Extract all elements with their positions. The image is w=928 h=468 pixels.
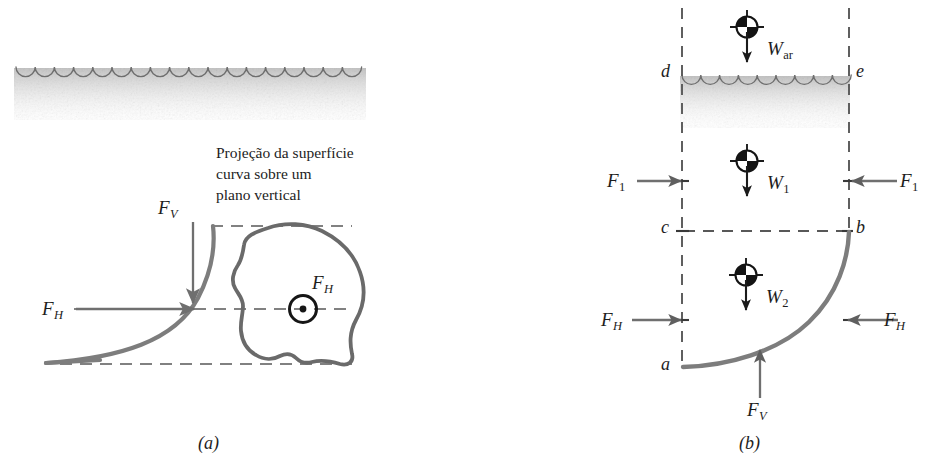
w2-symbol: W (766, 286, 782, 307)
water-surface-waves-b (680, 75, 851, 128)
projection-outline-a (233, 224, 364, 364)
fh-projection-symbol: F (312, 272, 324, 293)
label-fh-left: FH (601, 310, 622, 332)
figure-root: Projeção da superfície curva sobre um pl… (0, 0, 928, 468)
fh-projection-subscript: H (324, 282, 333, 296)
w1-subscript: 1 (783, 182, 789, 196)
fh-curve-subscript: H (54, 308, 63, 322)
centroid-dot-marker-a (290, 296, 317, 323)
fh-left-subscript: H (613, 319, 622, 333)
w-ar-subscript: ar (783, 48, 793, 62)
f1-left-subscript: 1 (619, 180, 625, 194)
fh-right-subscript: H (896, 319, 905, 333)
fv-bottom-subscript: V (759, 409, 767, 423)
label-w-ar: War (767, 39, 793, 61)
vertex-label-e: e (856, 62, 864, 80)
caption-panel-a: (a) (198, 434, 219, 452)
free-body-boundary-dashed-b (682, 8, 849, 367)
vertex-label-a: a (661, 355, 670, 373)
label-fh-projection-panel-a: FH (312, 273, 333, 295)
vertex-label-c: c (661, 218, 669, 236)
fh-curve-symbol: F (42, 298, 54, 319)
fh-left-symbol: F (601, 309, 613, 330)
figure-canvas (0, 0, 928, 468)
label-f1-left: F1 (607, 171, 625, 193)
force-arrows-b (632, 181, 898, 398)
fh-right-symbol: F (884, 309, 896, 330)
w2-subscript: 2 (782, 296, 788, 310)
vertex-label-d: d (661, 62, 670, 80)
projection-note: Projeção da superfície curva sobre um pl… (216, 143, 392, 205)
vertex-label-b: b (856, 218, 865, 236)
f1-right-symbol: F (900, 170, 912, 191)
fv-symbol: F (158, 197, 170, 218)
fv-bottom-symbol: F (747, 399, 759, 420)
fv-subscript: V (170, 207, 178, 221)
label-fh-curve-panel-a: FH (42, 299, 63, 321)
f1-right-subscript: 1 (912, 180, 918, 194)
label-fv-panel-a: FV (158, 198, 178, 220)
water-surface-waves-a (14, 67, 366, 120)
w-ar-symbol: W (767, 38, 783, 59)
label-w1: W1 (767, 173, 789, 195)
label-w2: W2 (766, 287, 788, 309)
label-fh-right: FH (884, 310, 905, 332)
panel-a-graphics (14, 67, 366, 365)
label-fv-bottom: FV (747, 400, 767, 422)
label-f1-right: F1 (900, 171, 918, 193)
w1-symbol: W (767, 172, 783, 193)
f1-left-symbol: F (607, 170, 619, 191)
caption-panel-b: (b) (739, 434, 760, 452)
curved-surface-a (46, 226, 214, 363)
